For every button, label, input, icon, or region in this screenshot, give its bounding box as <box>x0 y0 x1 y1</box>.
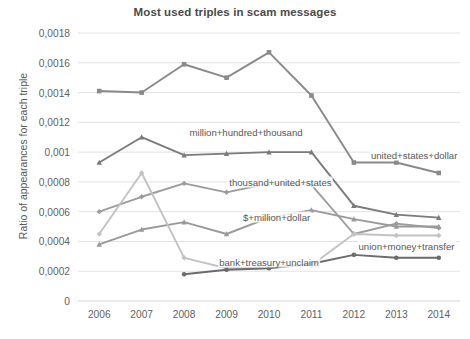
figure: Most used triples in scam messages Ratio… <box>0 0 470 339</box>
x-tick-label: 2008 <box>173 309 196 320</box>
y-tick-label: 0,0004 <box>10 236 70 247</box>
data-point-marker <box>97 209 102 214</box>
y-tick-label: 0,0002 <box>10 266 70 277</box>
y-tick-label: 0,0014 <box>10 87 70 98</box>
x-tick-label: 2009 <box>215 309 238 320</box>
data-point-marker <box>224 75 229 80</box>
data-point-marker <box>394 256 399 261</box>
y-tick-label: 0,0018 <box>10 28 70 39</box>
series-label: united+states+dollar <box>370 149 458 160</box>
x-tick-label: 2007 <box>130 309 153 320</box>
data-point-marker <box>352 160 357 165</box>
series-label: million+hundred+thousand <box>189 127 304 138</box>
data-point-marker <box>139 90 144 95</box>
series-label: thousand+united+states <box>228 176 332 187</box>
y-tick-label: 0,0006 <box>10 206 70 217</box>
x-tick-label: 2014 <box>427 309 450 320</box>
chart-title: Most used triples in scam messages <box>0 6 470 18</box>
y-tick-label: 0,0008 <box>10 176 70 187</box>
data-point-marker <box>182 62 187 67</box>
series-label: bank+treasury+unclaim <box>218 257 320 268</box>
data-point-marker <box>267 50 272 55</box>
data-point-marker <box>309 93 314 98</box>
y-tick-label: 0,001 <box>10 147 70 158</box>
data-point-marker <box>394 233 399 238</box>
x-tick-label: 2010 <box>258 309 281 320</box>
y-tick-label: 0 <box>10 296 70 307</box>
series-label: union+money+transfer <box>358 241 456 252</box>
data-point-marker <box>224 267 229 272</box>
x-tick-label: 2006 <box>88 309 111 320</box>
data-point-marker <box>224 190 229 195</box>
data-point-marker <box>139 194 144 199</box>
y-tick-label: 0,0012 <box>10 117 70 128</box>
y-tick-label: 0,0016 <box>10 57 70 68</box>
data-point-marker <box>352 253 357 258</box>
data-point-marker <box>436 233 441 238</box>
x-tick-label: 2012 <box>343 309 366 320</box>
data-point-marker <box>97 89 102 94</box>
data-point-marker <box>436 256 441 261</box>
data-point-marker <box>139 134 144 139</box>
data-point-marker <box>394 160 399 165</box>
data-point-marker <box>182 272 187 277</box>
data-point-marker <box>436 171 441 176</box>
y-axis-tick-labels: 00,00020,00040,00060,00080,0010,00120,00… <box>8 33 70 301</box>
x-tick-label: 2011 <box>300 309 322 320</box>
x-tick-label: 2013 <box>385 309 408 320</box>
series-label: $+million+dollar <box>242 211 311 222</box>
